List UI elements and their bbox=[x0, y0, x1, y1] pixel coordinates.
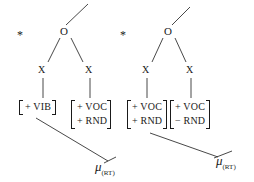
left-seg2-feature-voc: + VOC bbox=[77, 102, 107, 112]
left-seg2-open-bracket bbox=[71, 100, 75, 129]
left-o-upper-branch bbox=[66, 4, 88, 25]
left-o-to-x1 bbox=[48, 38, 60, 62]
left-ungrammatical-star: * bbox=[17, 29, 23, 41]
right-ungrammatical-star: * bbox=[120, 29, 126, 41]
right-seg2-feature-rnd: − RND bbox=[175, 116, 205, 126]
right-seg2-feature-voc: + VOC bbox=[175, 102, 205, 112]
right-assoc-line bbox=[150, 133, 218, 157]
right-seg2-close-bracket bbox=[206, 100, 210, 129]
right-seg1-open-bracket bbox=[127, 100, 131, 129]
left-seg1-close-bracket bbox=[52, 100, 56, 115]
left-seg1-feature: + VIB bbox=[25, 102, 51, 112]
right-seg1-feature-voc: + VOC bbox=[132, 102, 162, 112]
left-seg2-feature-rnd: + RND bbox=[77, 116, 107, 126]
right-seg1-feature-rnd: + RND bbox=[132, 116, 162, 126]
right-o-to-x2 bbox=[175, 38, 186, 62]
right-x2-node: X bbox=[186, 65, 193, 75]
right-mora-rt: μ(RT) bbox=[216, 154, 236, 171]
right-o-upper-branch bbox=[172, 7, 190, 25]
right-o-to-x1 bbox=[152, 38, 163, 62]
left-seg1-open-bracket bbox=[19, 100, 23, 115]
left-o-to-x2 bbox=[71, 38, 83, 62]
left-seg2-close-bracket bbox=[107, 100, 111, 129]
right-x1-node: X bbox=[142, 65, 149, 75]
left-x1-node: X bbox=[38, 65, 45, 75]
left-onset-node: O bbox=[60, 26, 68, 37]
left-x2-node: X bbox=[85, 65, 92, 75]
right-onset-node: O bbox=[164, 26, 172, 37]
left-mora-rt: μ(RT) bbox=[95, 160, 115, 177]
right-seg2-open-bracket bbox=[170, 100, 174, 129]
right-seg1-close-bracket bbox=[163, 100, 167, 129]
